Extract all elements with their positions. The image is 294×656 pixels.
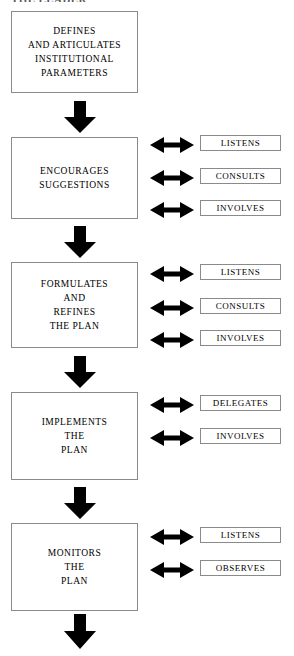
bidirectional-arrow-4b: [150, 429, 194, 447]
flow-down-arrow-3: [62, 356, 98, 389]
behaviour-label: CONSULTS: [216, 301, 266, 311]
behaviour-box-involves-4: INVOLVES: [200, 428, 281, 444]
flow-down-arrow-4: [62, 487, 98, 520]
stage-label-defines: DEFINES AND ARTICULATES INSTITUTIONAL PA…: [28, 24, 121, 80]
behaviour-box-consults-2: CONSULTS: [200, 168, 281, 184]
behaviour-box-listens-2: LISTENS: [200, 135, 281, 151]
behaviour-label: LISTENS: [221, 267, 261, 277]
bidirectional-arrow-3c: [150, 331, 194, 349]
behaviour-box-involves-3: INVOLVES: [200, 330, 281, 346]
bidirectional-arrow-5b: [150, 561, 194, 579]
behaviour-label: INVOLVES: [216, 333, 264, 343]
bidirectional-arrow-4a: [150, 396, 194, 414]
stage-label-formulates: FORMULATES AND REFINES THE PLAN: [41, 277, 108, 333]
bidirectional-arrow-3a: [150, 265, 194, 283]
stage-label-implements: IMPLEMENTS THE PLAN: [42, 415, 108, 457]
flow-down-arrow-1: [62, 101, 98, 134]
stage-label-encourages: ENCOURAGES SUGGESTIONS: [39, 164, 109, 192]
behaviour-box-consults-3: CONSULTS: [200, 298, 281, 314]
behaviour-box-delegates-4: DELEGATES: [200, 395, 281, 411]
bidirectional-arrow-5a: [150, 528, 194, 546]
stage-label-monitors: MONITORS THE PLAN: [48, 546, 101, 588]
behaviour-label: CONSULTS: [216, 171, 266, 181]
behaviour-label: LISTENS: [221, 530, 261, 540]
behaviour-label: LISTENS: [221, 138, 261, 148]
bidirectional-arrow-2a: [150, 136, 194, 154]
behaviour-label: INVOLVES: [216, 431, 264, 441]
behaviour-box-involves-2: INVOLVES: [200, 200, 281, 216]
flow-down-arrow-2: [62, 226, 98, 259]
bidirectional-arrow-3b: [150, 299, 194, 317]
flow-down-arrow-5: [62, 614, 98, 650]
leadership-process-flowchart: THE LEADER DEFINES AND ARTICULATES INSTI…: [0, 0, 294, 656]
stage-box-defines: DEFINES AND ARTICULATES INSTITUTIONAL PA…: [11, 11, 138, 93]
behaviour-box-listens-5: LISTENS: [200, 527, 281, 543]
bidirectional-arrow-2c: [150, 201, 194, 219]
stage-box-monitors: MONITORS THE PLAN: [11, 523, 138, 611]
behaviour-label: OBSERVES: [216, 563, 265, 573]
stage-box-formulates: FORMULATES AND REFINES THE PLAN: [11, 262, 138, 348]
clipped-heading: THE LEADER: [11, 0, 171, 2]
behaviour-box-listens-3: LISTENS: [200, 264, 281, 280]
behaviour-box-observes-5: OBSERVES: [200, 560, 281, 576]
stage-box-encourages: ENCOURAGES SUGGESTIONS: [11, 137, 138, 219]
behaviour-label: INVOLVES: [216, 203, 264, 213]
behaviour-label: DELEGATES: [213, 398, 269, 408]
bidirectional-arrow-2b: [150, 169, 194, 187]
stage-box-implements: IMPLEMENTS THE PLAN: [11, 392, 138, 480]
